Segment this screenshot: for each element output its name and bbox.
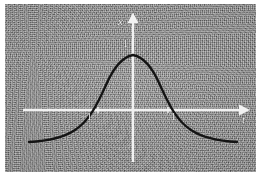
x-axis-label: x <box>118 16 123 27</box>
y-tick-label-1: 1 <box>123 39 128 49</box>
x-tick-label-minus-1: −1 <box>81 112 92 122</box>
t-axis-label: t <box>242 114 245 125</box>
plot-canvas: x t 1 −1 1 <box>5 4 256 172</box>
x-tick-label-1: 1 <box>171 112 176 122</box>
t-axis-horizontal <box>23 105 250 116</box>
scanned-plot-plate: x t 1 −1 1 <box>5 4 256 172</box>
figure-container: x t 1 −1 1 <box>0 0 261 175</box>
x-axis-vertical <box>128 13 139 163</box>
